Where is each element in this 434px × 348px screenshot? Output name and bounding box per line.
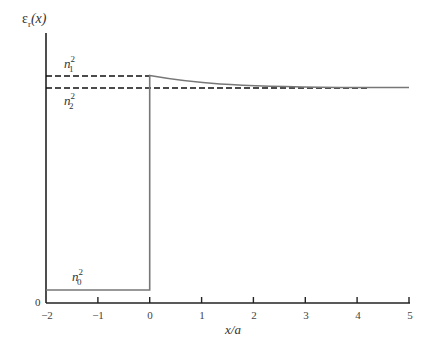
x-axis-ticks: [98, 297, 409, 303]
x-tick-label: 1: [199, 309, 205, 321]
x-tick-label: 4: [355, 309, 361, 321]
x-axis-label: x/a: [225, 322, 241, 338]
n2-squared-label: n22: [64, 92, 80, 111]
y-axis-origin-label: 0: [35, 296, 41, 308]
x-tick-label: −2: [41, 309, 53, 321]
x-tick-label: 5: [407, 309, 413, 321]
chart-plot-area: [0, 0, 434, 348]
x-tick-label: 0: [147, 309, 153, 321]
y-axis-label: εr(x): [22, 11, 46, 29]
x-tick-label: 2: [251, 309, 257, 321]
x-tick-label: 3: [303, 309, 309, 321]
permittivity-profile-curve: [46, 76, 409, 291]
x-tick-label: −1: [92, 309, 104, 321]
n1-squared-label: n21: [64, 55, 80, 74]
n0-squared-label: n20: [72, 268, 88, 287]
